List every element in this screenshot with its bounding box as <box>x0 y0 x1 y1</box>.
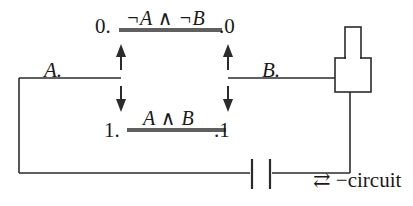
bottom-left-state-label: 1. <box>104 120 120 141</box>
arrowhead-left-down <box>116 99 126 112</box>
top-left-state-label: 0. <box>95 16 111 37</box>
arrowhead-left-up <box>116 44 126 57</box>
arrowhead-right-down <box>223 99 233 112</box>
switch-a-label: A. <box>44 60 62 81</box>
switch-b-label: B. <box>262 60 280 81</box>
lamp-body <box>335 58 371 92</box>
switch-arrowheads <box>116 44 233 112</box>
top-right-state-label: .0 <box>219 16 235 37</box>
arrowhead-right-up <box>223 44 233 57</box>
top-expression-label: ¬A ∧ ¬B <box>126 8 205 28</box>
rightleftarrows-circuit-figure: 0. .0 ¬A ∧ ¬B 1. .1 A ∧ B A. B. ⇄ −circu… <box>0 0 413 206</box>
circuit-caption-label: ⇄ −circuit <box>313 170 401 191</box>
bottom-right-state-label: .1 <box>214 120 230 141</box>
bottom-expression-label: A ∧ B <box>143 108 194 128</box>
lamp-neck <box>345 27 361 58</box>
